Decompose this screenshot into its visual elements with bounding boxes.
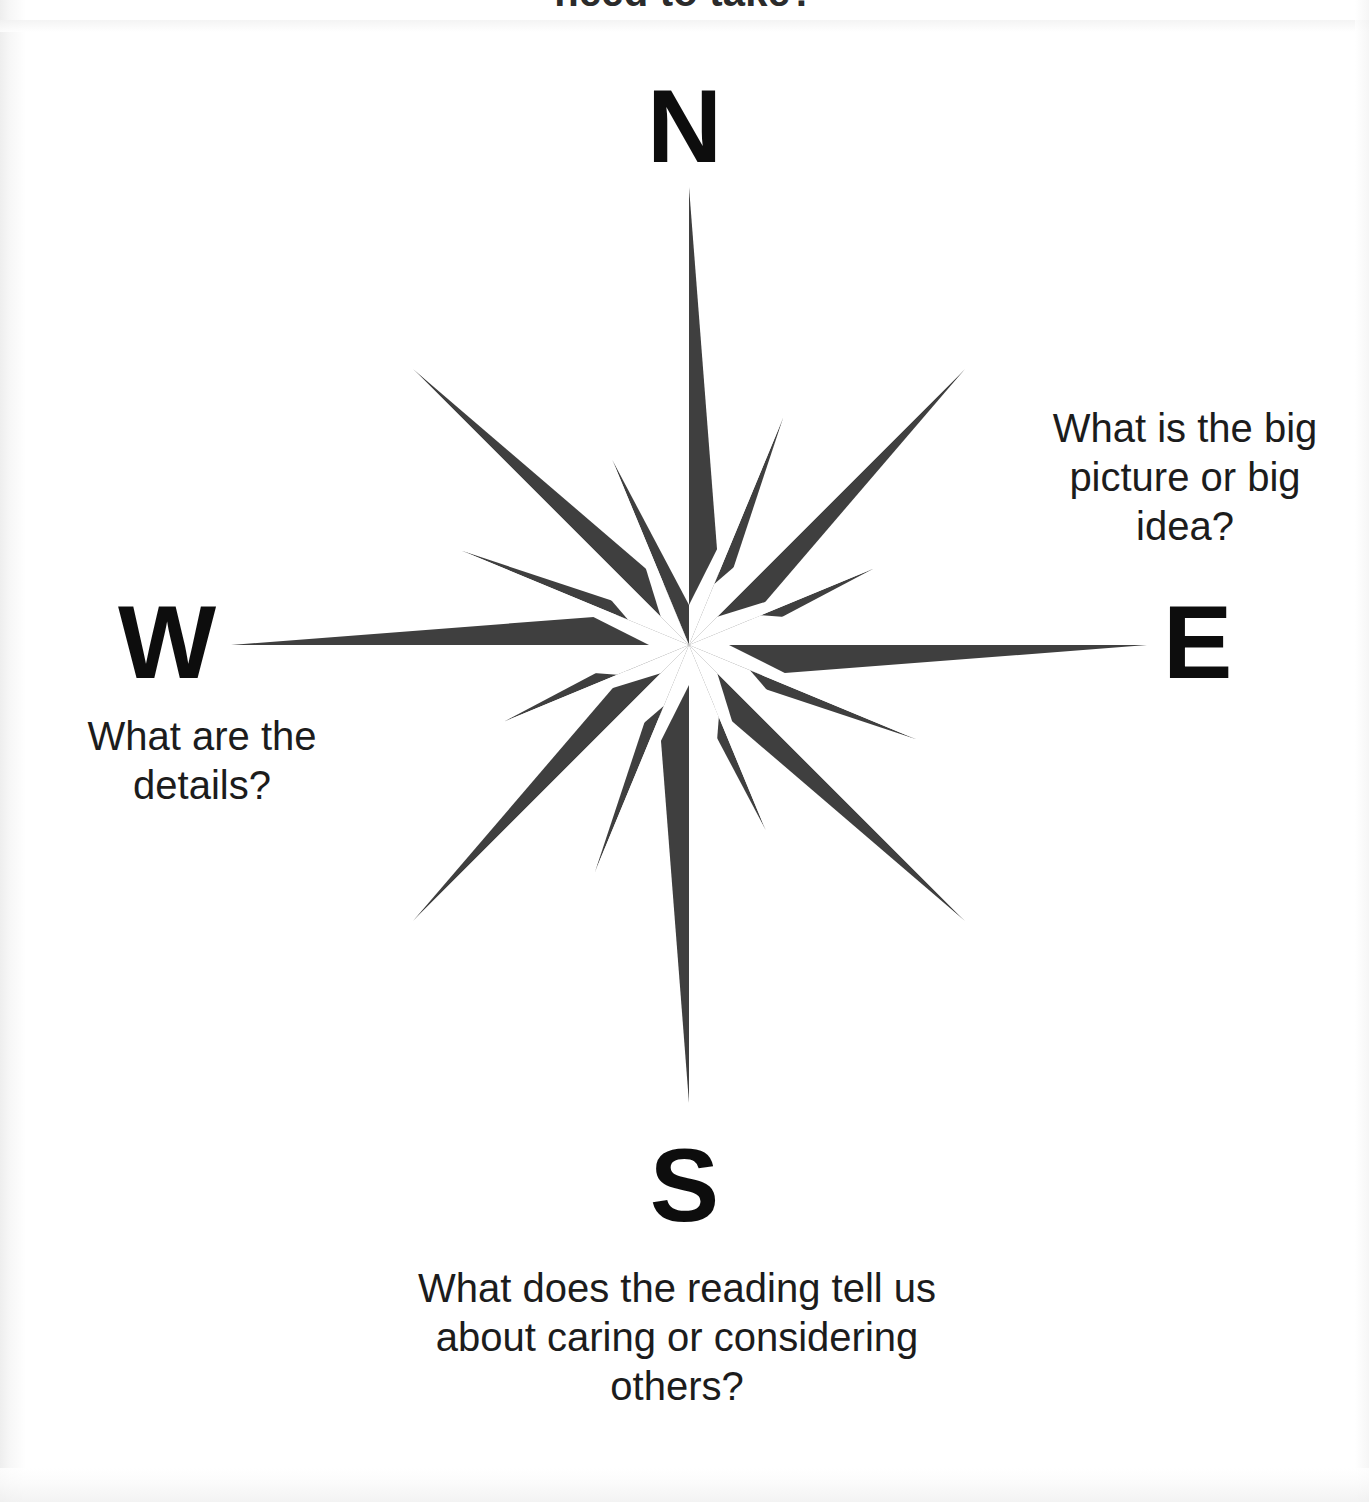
prompt-west: What are the details? <box>52 712 352 810</box>
compass-ray-light <box>231 645 689 675</box>
prompt-south: What does the reading tell us about cari… <box>412 1264 942 1410</box>
compass-rose-graphic <box>214 172 1164 1122</box>
cardinal-label-east: E <box>1163 590 1232 694</box>
prompt-northeast: What is the big picture or big idea? <box>1029 404 1341 550</box>
compass-ray-light <box>413 645 689 921</box>
scan-edge-bottom <box>0 1468 1369 1502</box>
scan-edge-left <box>0 0 26 1502</box>
compass-ray-light <box>689 615 1147 645</box>
compass-ray-light <box>413 369 689 645</box>
clipped-heading-text: need to take? <box>0 0 1369 15</box>
compass-ray-light <box>689 645 719 1103</box>
compass-ray-light <box>689 645 965 921</box>
compass-rose-worksheet-page: need to take? N S W E What is the big pi… <box>0 0 1369 1502</box>
cardinal-label-north: N <box>0 74 1369 178</box>
cardinal-label-south: S <box>0 1133 1369 1237</box>
cardinal-label-west: W <box>118 590 216 694</box>
scan-edge-top <box>0 20 1369 32</box>
scan-edge-right <box>1355 0 1369 1502</box>
